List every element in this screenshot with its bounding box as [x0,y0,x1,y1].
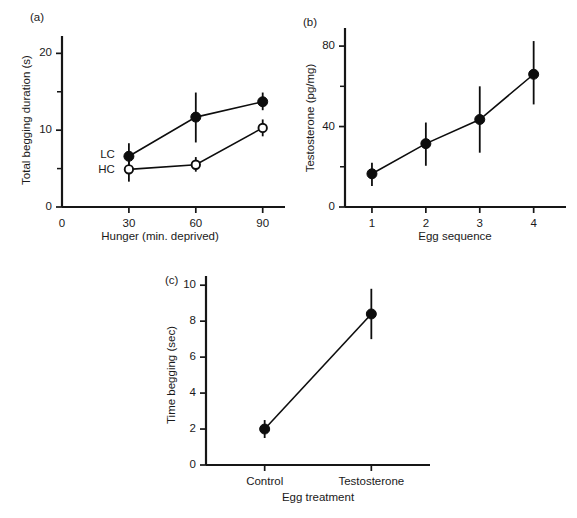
data-point-b-Testosterone-0[interactable] [367,169,377,179]
y-tick-label-c-4: 8 [190,314,196,326]
y-tick-label-c-2: 4 [190,386,197,398]
series-legend-label-HC: HC [98,163,115,175]
x-axis-title-c: Egg treatment [282,491,355,503]
y-axis-title-b: Testosterone (pg/mg) [304,64,316,173]
y-tick-label-b-1: 40 [322,120,335,132]
data-point-b-Testosterone-1[interactable] [421,139,431,149]
y-tick-label-a-0: 0 [46,200,52,212]
data-point-c-Time begging-1[interactable] [366,309,376,319]
series-legend-label-LC: LC [100,148,115,160]
y-tick-label-b-2: 80 [322,39,335,51]
x-tick-label-b-2: 3 [477,217,483,229]
x-tick-label-c-0: Control [246,475,283,487]
series-c-Time begging [260,289,377,438]
data-point-a-HC-1[interactable] [192,161,200,169]
x-tick-label-a-0: 0 [59,217,65,229]
figure-container: (a)010200306090Hunger (min. deprived)Tot… [0,0,577,518]
y-tick-label-c-0: 0 [190,458,196,470]
x-tick-label-a-1: 30 [123,217,136,229]
y-axis-title-c: Time begging (sec) [165,326,177,424]
x-tick-label-b-3: 4 [530,217,537,229]
data-point-c-Time begging-0[interactable] [260,424,270,434]
x-tick-label-a-2: 60 [189,217,202,229]
x-axis-title-b: Egg sequence [418,230,492,242]
series-line-b-Testosterone [372,74,534,174]
series-b-Testosterone [367,41,539,186]
panel-c: (c)0246810ControlTestosteroneEgg treatme… [165,274,430,503]
panel-label-b: (b) [303,16,317,28]
y-tick-label-a-2: 20 [39,46,52,58]
data-point-a-HC-0[interactable] [125,165,133,173]
x-tick-label-a-3: 90 [256,217,269,229]
data-point-a-LC-2[interactable] [258,97,268,107]
data-point-b-Testosterone-3[interactable] [529,69,539,79]
panel-a: (a)010200306090Hunger (min. deprived)Tot… [20,11,285,242]
x-tick-label-b-0: 1 [369,217,375,229]
data-point-a-HC-2[interactable] [259,124,267,132]
panel-label-a: (a) [30,11,44,23]
y-tick-label-a-1: 10 [39,123,52,135]
x-axis-title-a: Hunger (min. deprived) [101,230,219,242]
panel-label-c: (c) [165,274,179,286]
data-point-b-Testosterone-2[interactable] [475,115,485,125]
panel-b: (b)040801234Egg sequenceTestosterone (pg… [303,16,566,242]
y-axis-title-a: Total begging duration (s) [20,55,32,185]
y-tick-label-c-3: 6 [190,350,196,362]
x-tick-label-c-1: Testosterone [338,475,404,487]
data-point-a-LC-1[interactable] [191,112,201,122]
y-tick-label-b-0: 0 [329,200,335,212]
x-tick-label-b-1: 2 [423,217,429,229]
data-point-a-LC-0[interactable] [124,151,134,161]
multi-panel-figure: (a)010200306090Hunger (min. deprived)Tot… [0,0,577,518]
series-line-c-Time begging [265,314,372,429]
y-tick-label-c-5: 10 [183,278,196,290]
series-a-LC [124,93,268,168]
y-tick-label-c-1: 2 [190,422,196,434]
